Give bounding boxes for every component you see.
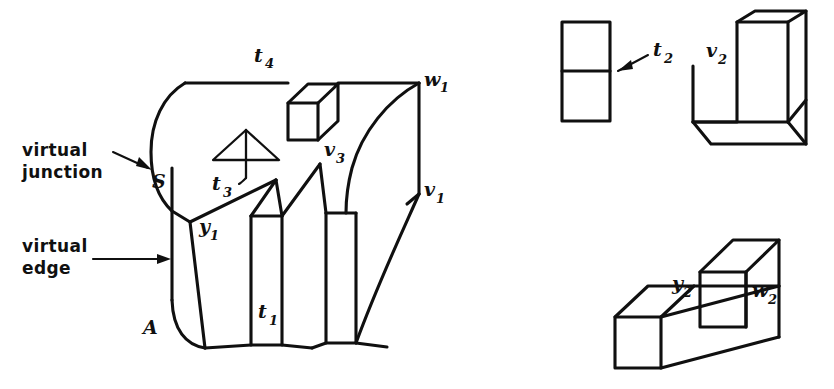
t2-rectangle bbox=[562, 22, 648, 121]
label-v2: v 2 bbox=[706, 39, 727, 67]
slot1-right-inner-edge bbox=[276, 180, 282, 216]
label-t4: t 4 bbox=[254, 44, 274, 71]
t4-box-front-face bbox=[288, 103, 318, 140]
triangle-stem-hook bbox=[239, 178, 246, 184]
label-w2-base: w bbox=[752, 279, 769, 301]
main-curved-object bbox=[151, 83, 419, 348]
virtual-junction-line2: junction bbox=[21, 162, 103, 182]
t4-small-box bbox=[288, 84, 338, 140]
label-y1: y 1 bbox=[198, 215, 219, 243]
label-t2: t 2 bbox=[653, 38, 673, 66]
right-curved-surface-upper bbox=[346, 83, 419, 213]
label-S-base: S bbox=[152, 170, 166, 192]
virtual-junction-line1: virtual bbox=[22, 140, 88, 160]
virtual-junction-arrowhead bbox=[136, 157, 152, 170]
stepped-block bbox=[615, 240, 779, 368]
label-v3-base: v bbox=[324, 138, 336, 160]
label-A: A bbox=[141, 316, 158, 338]
step-lower-front-face bbox=[615, 317, 661, 368]
virtual-edge-line2: edge bbox=[22, 258, 71, 278]
t2-leader-arrowhead bbox=[618, 60, 633, 71]
step-lower-bottom-right-edge bbox=[661, 337, 779, 368]
label-t2-sub: 2 bbox=[663, 51, 673, 66]
label-w2: w 2 bbox=[752, 279, 777, 307]
label-w1: w 1 bbox=[424, 68, 449, 95]
label-y2-sub: 2 bbox=[682, 285, 692, 300]
virtual-edge-line1: virtual bbox=[22, 236, 88, 256]
label-t2-base: t bbox=[653, 38, 662, 60]
label-v2-base: v bbox=[706, 39, 718, 61]
step-upper-top-face bbox=[700, 240, 779, 272]
label-w1-base: w bbox=[424, 68, 441, 90]
right-body-bottom-edge bbox=[356, 343, 387, 347]
v2-bottom-right-edge bbox=[788, 122, 806, 144]
label-w2-sub: 2 bbox=[767, 292, 777, 307]
label-t4-base: t bbox=[254, 44, 263, 66]
v2-front-face-upper bbox=[693, 22, 788, 122]
slot2-floor-left bbox=[312, 343, 326, 348]
triangle-marker-t3 bbox=[213, 130, 279, 184]
label-t1-sub: 1 bbox=[269, 313, 278, 328]
label-w1-sub: 1 bbox=[440, 80, 449, 95]
right-curved-surface-lower bbox=[356, 194, 419, 343]
figure-root: virtual junction virtual edge t 4 w 1 v … bbox=[0, 0, 834, 389]
v2-right-side-face bbox=[788, 11, 806, 122]
label-A-base: A bbox=[141, 316, 158, 338]
label-t3: t 3 bbox=[212, 172, 232, 200]
label-y1-sub: 1 bbox=[210, 228, 219, 243]
slot1-floor-left bbox=[205, 345, 251, 348]
label-v1: v 1 bbox=[424, 178, 445, 206]
label-t3-sub: 3 bbox=[223, 185, 232, 200]
t4-box-top-face bbox=[288, 84, 338, 103]
v3-right-inner-edge bbox=[320, 164, 326, 213]
label-v3: v 3 bbox=[324, 138, 345, 166]
label-v1-base: v bbox=[424, 178, 436, 200]
label-S: S bbox=[152, 170, 166, 192]
y1-vertical-edge bbox=[190, 222, 205, 348]
slot2-left-rise bbox=[282, 164, 320, 216]
slab2-front-face bbox=[326, 213, 356, 343]
label-v2-sub: 2 bbox=[717, 52, 727, 67]
label-v3-sub: 3 bbox=[336, 151, 345, 166]
label-v1-sub: 1 bbox=[436, 191, 445, 206]
label-t4-sub: 4 bbox=[265, 56, 274, 71]
label-t3-base: t bbox=[212, 172, 221, 194]
virtual-edge-arrowhead bbox=[157, 254, 171, 264]
slot1-floor-right bbox=[282, 345, 312, 348]
v2-l-block bbox=[693, 11, 806, 144]
annotation-leaders bbox=[93, 152, 171, 264]
label-t1-base: t bbox=[258, 300, 267, 322]
v2-top-face bbox=[737, 11, 806, 22]
line-drawing-figure: virtual junction virtual edge t 4 w 1 v … bbox=[0, 0, 834, 389]
label-t1: t 1 bbox=[258, 300, 278, 328]
